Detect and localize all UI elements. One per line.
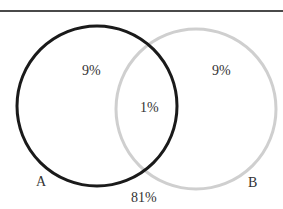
region-a-only-label: 9% — [82, 63, 101, 78]
venn-diagram: 9% 9% 1% 81% A B — [0, 0, 283, 209]
region-neither-label: 81% — [131, 190, 157, 205]
region-intersection-label: 1% — [140, 100, 159, 115]
region-b-only-label: 9% — [212, 63, 231, 78]
set-b-name: B — [248, 175, 257, 190]
set-a-name: A — [36, 174, 47, 189]
